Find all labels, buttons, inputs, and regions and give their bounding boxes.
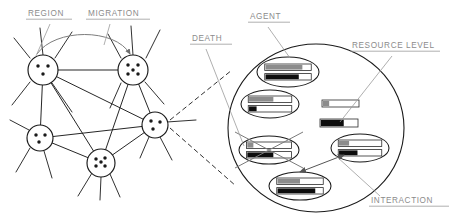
region-stub-edge (44, 151, 52, 178)
region-node-circle[interactable] (27, 125, 53, 151)
callout-label-agent: AGENT (248, 12, 290, 22)
region-stub-edge (52, 83, 72, 112)
region-edge (52, 143, 88, 158)
agent-resource-bar-black (248, 106, 292, 112)
agent-resource-bar-gray (247, 142, 292, 148)
migration-arc (37, 35, 130, 55)
region-agent-dot (158, 120, 162, 124)
magnifier-connector-lines (170, 70, 236, 186)
magnifier-connector (170, 128, 236, 186)
region-stub-edge (14, 38, 30, 58)
region-edge (51, 83, 94, 151)
agent-resource-bar-gray-fill (266, 65, 303, 70)
region-stub-edge (131, 26, 133, 55)
agent-resource-bar-black-fill (339, 150, 357, 155)
agent[interactable] (257, 57, 319, 87)
agent-resource-bar-gray (248, 96, 292, 102)
region-stub-edge (145, 82, 164, 104)
region-edge (53, 126, 142, 136)
agent-resource-bar-gray (338, 140, 382, 146)
agent[interactable] (331, 134, 389, 162)
region-stub-edge (10, 120, 29, 130)
region-agent-dot (37, 140, 41, 144)
agent-resource-bar-black (247, 152, 292, 158)
agent-list (235, 57, 389, 200)
sample-resource-bar-fill (321, 120, 344, 126)
region-stub-edge (108, 34, 121, 58)
region-stub-edge (167, 120, 196, 122)
agent-body[interactable] (269, 172, 331, 200)
agent-resource-bar-black (338, 150, 382, 156)
region-agent-dot (99, 160, 103, 164)
agent-resource-bar-black-fill (266, 74, 299, 79)
callout-leader-line (340, 56, 392, 122)
region-node[interactable] (27, 125, 53, 151)
agent-resource-bar-black (265, 74, 312, 80)
agent-resource-bar-black (277, 188, 324, 194)
callout-label-text: REGION (28, 9, 64, 18)
agent-resource-bar-gray-fill (339, 141, 349, 146)
region-stub-edge (16, 148, 30, 172)
sample-resource-bars (320, 100, 359, 127)
agent-resource-bar-gray (265, 64, 312, 70)
callout-leader-line (104, 24, 110, 45)
region-stub-edge (110, 83, 121, 108)
agent-resource-bar-gray-fill (278, 179, 300, 184)
region-node[interactable] (118, 55, 148, 85)
agent-body[interactable] (241, 90, 299, 118)
sample-resource-bar (322, 100, 359, 107)
agent-resource-bar-gray (277, 178, 324, 184)
agent[interactable] (241, 90, 299, 118)
region-agent-dot (94, 157, 98, 161)
migration-arc-path (37, 35, 130, 55)
region-agent-dot (94, 164, 98, 168)
agent[interactable] (269, 172, 331, 200)
region-agent-dot (131, 68, 135, 72)
region-agent-dot (41, 72, 45, 76)
callout-label-migration: MIGRATION (86, 9, 150, 19)
callout-label-text: DEATH (192, 34, 222, 43)
callout-label-death: DEATH (190, 34, 232, 44)
agent-resource-bar-black-fill (249, 106, 257, 111)
region-node[interactable] (28, 55, 58, 85)
region-node[interactable] (87, 149, 115, 177)
agent-resource-bar-gray-fill (249, 97, 273, 102)
region-node[interactable] (142, 112, 168, 138)
region-agent-dot (46, 64, 50, 68)
callout-label-text: AGENT (250, 12, 281, 21)
callout-label-text: INTERACTION (371, 196, 433, 205)
callout-label-interaction: INTERACTION (369, 196, 449, 206)
agent-body[interactable] (257, 57, 319, 87)
sample-resource-bar-fill (323, 101, 329, 106)
region-stub-edge (160, 137, 172, 160)
region-node-circle[interactable] (28, 55, 58, 85)
region-agent-dot (34, 133, 38, 137)
callout-label-text: RESOURCE LEVEL (352, 41, 435, 50)
agent-body[interactable] (331, 134, 389, 162)
region-agent-dot (126, 72, 130, 76)
callout-leader-line (268, 27, 290, 58)
region-edge (41, 85, 43, 125)
diagram-root: REGIONMIGRATIONDEATHAGENTRESOURCE LEVELI… (0, 0, 454, 219)
region-stub-edge (78, 173, 92, 196)
region-agent-dot (103, 164, 107, 168)
region-agent-dot (36, 64, 40, 68)
region-node-circle[interactable] (142, 112, 168, 138)
agent[interactable] (235, 132, 303, 168)
sample-resource-bar (320, 119, 358, 127)
region-edge (106, 84, 129, 150)
callout-label-resource_level: RESOURCE LEVEL (350, 41, 440, 51)
region-stub-edge (110, 174, 120, 197)
callout-leader-line (206, 49, 244, 146)
callout-label-text: MIGRATION (88, 9, 139, 18)
agent-resource-bar-gray-fill (247, 143, 253, 148)
region-agent-dot (103, 156, 107, 160)
region-agent-dot (136, 72, 140, 76)
region-agent-dot (136, 63, 140, 67)
callout-label-region: REGION (26, 9, 72, 19)
region-stub-edge (140, 137, 149, 158)
region-agent-dot (43, 133, 47, 137)
region-stub-edge (146, 30, 160, 58)
agent-resource-bar-black-fill (278, 188, 316, 193)
region-agent-dot (151, 127, 155, 131)
